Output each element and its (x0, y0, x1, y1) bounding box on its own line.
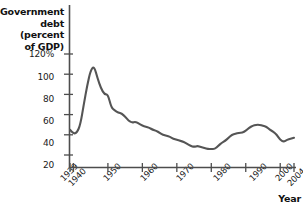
y-tick-marks (64, 54, 73, 155)
chart-figure: Government debt (percent of GDP) Year 12… (0, 0, 303, 208)
debt-series-line (70, 68, 294, 149)
plot-area (0, 0, 303, 208)
